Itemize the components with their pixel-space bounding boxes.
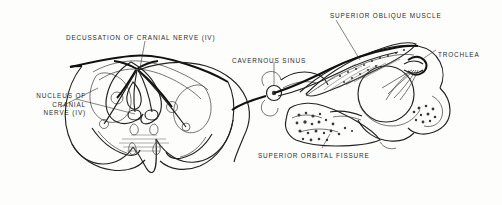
label-trochlea: TROCHLEA (438, 51, 480, 60)
label-nucleus-cranial-nerve-iv: NUCLEUS OF CRANIAL NERVE (IV) (12, 92, 86, 118)
label-decussation-cranial-nerve-iv: DECUSSATION OF CRANIAL NERVE (IV) (66, 34, 215, 43)
label-cavernous-sinus: CAVERNOUS SINUS (232, 57, 306, 66)
fiber-hatching (119, 135, 169, 151)
label-superior-oblique-muscle: SUPERIOR OBLIQUE MUSCLE (330, 12, 442, 21)
sphenoid-bone (285, 103, 380, 146)
orbit-region (300, 43, 450, 149)
frontal-bone-stipple (413, 105, 437, 124)
label-superior-orbital-fissure: SUPERIOR ORBITAL FISSURE (258, 152, 370, 161)
leader-superior-oblique (336, 20, 360, 60)
brainstem-cross-section (65, 55, 234, 172)
anatomy-diagram: DECUSSATION OF CRANIAL NERVE (IV) NUCLEU… (0, 0, 502, 205)
